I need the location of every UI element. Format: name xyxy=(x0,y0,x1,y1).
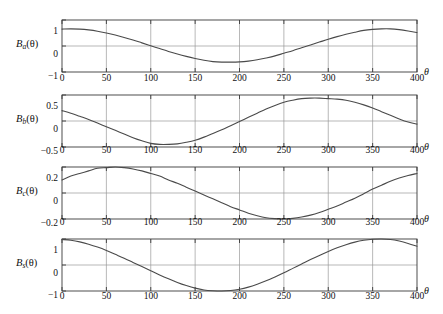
xtick-label: 300 xyxy=(313,73,343,83)
xtick-label: 150 xyxy=(180,291,210,301)
xtick-label: 400 xyxy=(402,145,432,155)
xtick-label: 0 xyxy=(47,217,77,227)
xtick-label: 250 xyxy=(269,145,299,155)
xtick-label: 50 xyxy=(91,73,121,83)
xtick-label: 250 xyxy=(269,291,299,301)
xtick-label: 250 xyxy=(269,73,299,83)
xtick-label: 400 xyxy=(402,291,432,301)
xtick-label: 250 xyxy=(269,217,299,227)
xtick-label: 150 xyxy=(180,73,210,83)
xtick-label: 50 xyxy=(91,145,121,155)
xtick-label: 400 xyxy=(402,73,432,83)
xtick-label: 0 xyxy=(47,291,77,301)
xtick-label: 300 xyxy=(313,145,343,155)
xtick-label: 350 xyxy=(358,145,388,155)
xtick-label: 100 xyxy=(136,291,166,301)
xtick-label: 300 xyxy=(313,217,343,227)
xtick-label: 350 xyxy=(358,217,388,227)
xtick-label: 0 xyxy=(47,73,77,83)
xtick-label: 200 xyxy=(225,145,255,155)
chart-panel-c: Bc(θ) 0.2 0 −0.2 θ xyxy=(0,161,443,219)
xtick-label: 0 xyxy=(47,145,77,155)
xtick-label: 200 xyxy=(225,291,255,301)
chart-panel-a: Ba(θ) 1 0 −1 θ xyxy=(0,14,443,72)
xtick-label: 350 xyxy=(358,73,388,83)
xtick-label: 350 xyxy=(358,291,388,301)
multi-panel-sinusoid-figure: Ba(θ) 1 0 −1 θ Bb(θ) 0.5 0 −0.5 θ Bc(θ) … xyxy=(0,0,443,314)
xtick-label: 200 xyxy=(225,73,255,83)
xtick-label: 200 xyxy=(225,217,255,227)
xtick-label: 50 xyxy=(91,291,121,301)
xtick-label: 100 xyxy=(136,145,166,155)
xtick-label: 150 xyxy=(180,217,210,227)
xtick-label: 300 xyxy=(313,291,343,301)
xtick-label: 50 xyxy=(91,217,121,227)
chart-panel-b: Bb(θ) 0.5 0 −0.5 θ xyxy=(0,89,443,147)
xtick-label: 150 xyxy=(180,145,210,155)
chart-panel-s: Bs(θ) 1 0 −1 θ xyxy=(0,233,443,291)
xtick-label: 100 xyxy=(136,73,166,83)
xtick-label: 100 xyxy=(136,217,166,227)
xtick-label: 400 xyxy=(402,217,432,227)
